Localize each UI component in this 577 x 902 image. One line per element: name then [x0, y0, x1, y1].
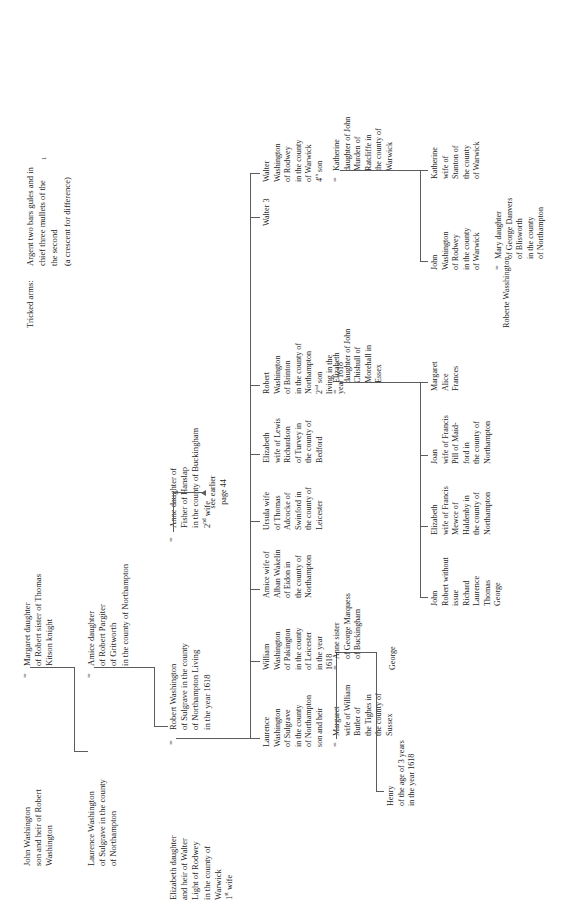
issue-tick-john-robert: [420, 597, 428, 598]
child-tick-amice: [250, 589, 260, 590]
footer-note: Roberte Wasshington: [502, 148, 513, 328]
issue-drop-walter-rodwey: [340, 170, 420, 171]
issue-bus-child-laurence: [376, 652, 377, 792]
node-issue-katherine-stanton: Katherine wife of Stanton of the county …: [430, 103, 483, 179]
node-child-elizabeth: Elizabeth wife of Lewis Richardson of Tu…: [262, 383, 325, 463]
descent-line-gen1: [30, 667, 74, 668]
child-tick-william: [250, 661, 260, 662]
issue-tick-katherine-stanton: [420, 170, 428, 171]
issue-tick-elizabeth-mewce: [420, 526, 428, 527]
marriage-line-wife2: [173, 492, 174, 532]
children-bus-drop: [176, 738, 250, 739]
descent-elbow-gen2: [154, 667, 155, 727]
see-earlier-caption: see earlier page 44: [208, 460, 229, 524]
node-grandchild-george: George: [388, 600, 399, 670]
descent-elbow-gen1: [74, 667, 75, 752]
node-grandchild-henry: Henry of the age of 3 years in the year …: [386, 686, 418, 806]
node-robert-brinton-spouse: Elizabeth daughter of John Chishull of M…: [332, 285, 385, 383]
child-tick-walter3: [250, 217, 260, 218]
see-earlier-pointer-line: [173, 492, 203, 493]
node-issue-margaret-alice-frances: Margaret Alice Frances: [430, 321, 462, 391]
see-earlier-arrow-icon: [201, 490, 206, 496]
node-child-william-spouse: Anne sister of George Marquess of Buckin…: [332, 571, 364, 659]
marriage-sign-gen1: =: [20, 673, 30, 678]
issue-tick-john-rodwey: [420, 261, 428, 262]
marriage-sign-wife1: =: [166, 740, 176, 745]
tricked-arms-footnote-marker: 1: [40, 140, 49, 160]
marriage-sign-child-william: =: [330, 665, 340, 670]
marriage-sign-john-rodwey: =: [492, 265, 502, 270]
node-child-william: William Washington of Pakington in the c…: [262, 590, 336, 670]
issue-bus-robert-brinton: [420, 383, 421, 598]
marriage-sign-wife2: =: [166, 537, 176, 542]
child-tick-ursula: [250, 521, 260, 522]
child-tick-elizabeth: [250, 454, 260, 455]
issue-tick-henry: [376, 791, 384, 792]
child-tick-laurence: [250, 738, 260, 739]
node-child-laurence: Laurence Washington of Sulgrave in the c…: [262, 669, 325, 747]
marriage-sign-walter-rodwey: =: [330, 177, 340, 182]
node-child-walter-rodwey: Walter Washington of Rodwey in the count…: [262, 100, 325, 182]
node-robert-washington-gen3: Robert Washington of Sulgrave in the cou…: [168, 550, 213, 730]
node-issue-joan-pill: Joan wife of Francis Pill of Maid- ford …: [430, 382, 493, 464]
pedigree-chart: John Washington son and heir of Robert W…: [0, 0, 577, 902]
node-amice-pargiter: Amice daughter of Robert Pargiter of Gri…: [86, 406, 131, 666]
issue-tick-margaret-alice-frances: [420, 382, 428, 383]
children-bus: [250, 174, 251, 739]
node-elizabeth-light-wife1: Elizabeth daughter and heir of Walter Li…: [168, 750, 235, 900]
node-walter-rodwey-spouse: Katherine daughter of John Murden of Rat…: [332, 73, 395, 171]
tricked-arms-label: Tricked arms:: [24, 268, 36, 328]
node-john-washington: John Washington son and heir of Robert W…: [22, 696, 56, 866]
issue-bus-walter-rodwey: [420, 170, 421, 262]
descent-drop-gen2: [154, 726, 168, 727]
node-john-washington-spouse: Margaret daughter of Robert sister of Th…: [22, 436, 56, 666]
node-issue-john-robert: John Robert without issue Richard Lauren…: [430, 524, 504, 606]
node-issue-john-rodwey: John Washington of Rodwey in the county …: [430, 194, 483, 270]
child-tick-walter-rodwey: [250, 173, 260, 174]
marriage-sign-gen2: =: [84, 673, 94, 678]
issue-bus-link-robert-brinton: [340, 382, 420, 383]
descent-line-gen2: [94, 667, 154, 668]
node-laurence-washington-gen2: Laurence Washington of Sulgrave in the c…: [86, 681, 120, 866]
node-child-ursula: Ursula wife of Thomas Adcocke of Swinfor…: [262, 452, 325, 530]
marriage-sign-child-laurence: =: [330, 742, 340, 747]
issue-tick-joan-pill: [420, 455, 428, 456]
child-tick-robert-brinton: [250, 385, 260, 386]
marriage-sign-robert-brinton: =: [330, 389, 340, 394]
